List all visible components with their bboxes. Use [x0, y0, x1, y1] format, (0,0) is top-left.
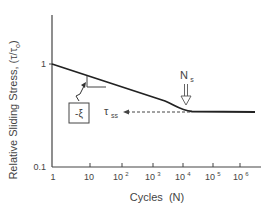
y-tick-label: 0.1 [33, 162, 46, 172]
svg-text:6: 6 [245, 171, 249, 177]
steady-state-label: τ ss [104, 105, 119, 119]
svg-text:4: 4 [187, 171, 191, 177]
svg-text:10: 10 [205, 172, 215, 182]
x-tick-label: 10 5 [205, 171, 221, 182]
svg-text:s: s [190, 76, 194, 83]
svg-text:10: 10 [233, 172, 243, 182]
slope-pointer [76, 86, 84, 101]
x-tick-label: 10 3 [145, 171, 161, 182]
svg-text:10: 10 [175, 172, 185, 182]
x-tick-label: 10 6 [233, 171, 249, 182]
svg-text:N: N [180, 69, 188, 81]
x-tick-label: 1 [50, 172, 55, 182]
svg-text:10: 10 [145, 172, 155, 182]
slope-label: -ξ [75, 108, 83, 120]
x-tick-label: 10 4 [175, 171, 191, 182]
chart: 1 0.1 1 10 10 2 10 3 10 4 10 5 10 6 Cycl… [0, 0, 273, 216]
svg-text:ss: ss [111, 112, 119, 119]
svg-text:5: 5 [217, 171, 221, 177]
transition-label: N s [180, 69, 194, 83]
svg-text:3: 3 [157, 171, 161, 177]
x-tick-label: 10 2 [113, 171, 129, 182]
x-axis-label: Cycles (N) [130, 191, 184, 203]
svg-text:Relative Sliding Stress, (τ/τo: Relative Sliding Stress, (τ/τo) [7, 40, 21, 179]
y-tick-label: 1 [41, 59, 46, 69]
svg-text:10: 10 [113, 172, 123, 182]
svg-text:τ: τ [104, 105, 109, 117]
steady-state-arrowhead [123, 110, 129, 115]
y-axis-label: Relative Sliding Stress, (τ/τo) [7, 40, 21, 179]
x-tick-label: 10 [84, 172, 94, 182]
svg-text:2: 2 [125, 171, 129, 177]
transition-arrow [181, 84, 191, 105]
